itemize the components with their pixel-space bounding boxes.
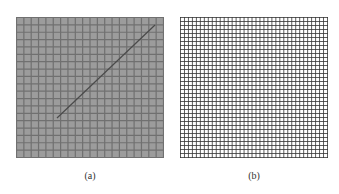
mesh-grid-b	[180, 17, 328, 158]
panel-b-fine-grid	[180, 17, 328, 158]
panel-a-gray-mesh	[16, 17, 164, 158]
caption-a: (a)	[70, 170, 110, 181]
caption-b: (b)	[234, 170, 274, 181]
mesh-grid-a	[16, 17, 164, 158]
